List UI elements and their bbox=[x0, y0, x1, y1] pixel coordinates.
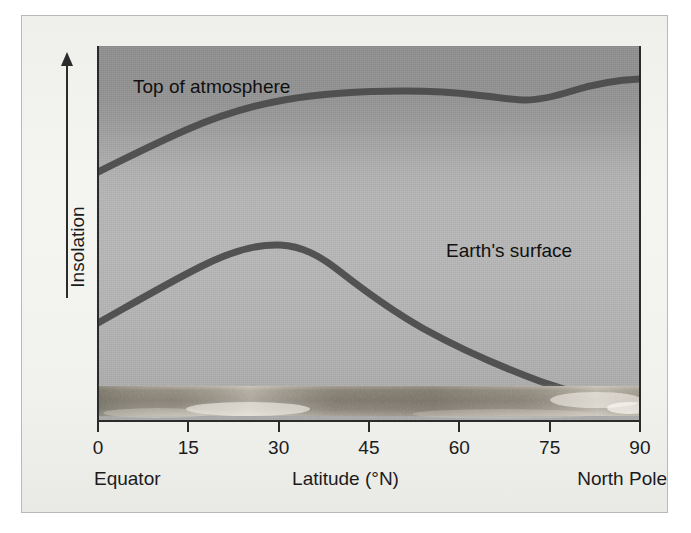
y-axis-title: Insolation bbox=[67, 167, 89, 327]
ground-texture bbox=[98, 384, 640, 420]
y-axis-group: Insolation bbox=[40, 46, 92, 420]
x-axis-tick-label-75: 75 bbox=[539, 437, 560, 459]
figure-root: Top of atmosphere Earth's surface 015304… bbox=[0, 0, 691, 533]
x-axis-tick-15 bbox=[187, 421, 189, 432]
x-axis-tick-label-60: 60 bbox=[449, 437, 470, 459]
x-axis-tick-label-15: 15 bbox=[178, 437, 199, 459]
x-axis-tick-0 bbox=[97, 421, 99, 432]
x-axis-tick-75 bbox=[549, 421, 551, 432]
x-axis-tick-label-90: 90 bbox=[629, 437, 650, 459]
x-axis-caption-north-pole: North Pole bbox=[577, 468, 667, 490]
curve-earths-surface bbox=[98, 245, 640, 406]
x-axis-tick-45 bbox=[368, 421, 370, 432]
x-axis-tick-label-45: 45 bbox=[358, 437, 379, 459]
data-curves bbox=[98, 46, 640, 420]
ground-landscape-strip bbox=[98, 384, 640, 420]
plot-right-border bbox=[639, 46, 641, 421]
y-axis-line bbox=[97, 46, 99, 421]
plot-area bbox=[98, 46, 640, 420]
x-axis-tick-60 bbox=[458, 421, 460, 432]
x-axis-title: Latitude (°N) bbox=[292, 468, 399, 490]
curve-label-earths-surface: Earth's surface bbox=[446, 240, 572, 262]
x-axis-caption-equator: Equator bbox=[94, 468, 161, 490]
x-axis-tick-label-0: 0 bbox=[93, 437, 104, 459]
x-axis-tick-30 bbox=[278, 421, 280, 432]
curve-label-top-of-atmosphere: Top of atmosphere bbox=[133, 76, 290, 98]
x-axis-tick-label-30: 30 bbox=[268, 437, 289, 459]
x-axis-tick-90 bbox=[639, 421, 641, 432]
